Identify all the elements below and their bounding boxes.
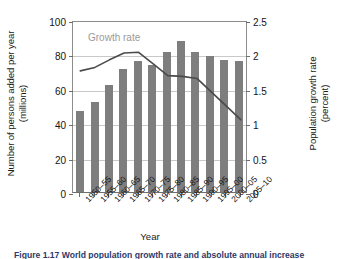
y-axis-right-tick-label: 0.5 — [253, 154, 267, 165]
y-axis-left-tick-label: 40 — [55, 120, 66, 131]
figure-caption: Figure 1.17 World population growth rate… — [14, 250, 334, 259]
x-axis-tick-label: 1985–90 — [185, 197, 192, 204]
x-axis-tick-label: 1970–75 — [142, 197, 149, 204]
x-axis-labels: 1950–551955–601960–651965–701970–751975–… — [72, 197, 247, 231]
y-axis-right-title-line2: (percent) — [319, 56, 331, 150]
x-axis-tick-label: 1955–60 — [98, 197, 105, 204]
x-axis-tick-label: 1990–95 — [200, 197, 207, 204]
plot-area: 020406080100 00.511.522.5 — [72, 21, 247, 193]
growth-rate-line — [80, 52, 240, 119]
x-axis-tick-label: 2005–10 — [244, 197, 251, 204]
y-axis-right-title: Population growth rate (percent) — [302, 8, 336, 198]
x-axis-tick-label: 1975–80 — [156, 197, 163, 204]
x-axis-tick-label: 1980–85 — [171, 197, 178, 204]
y-axis-left-tick-label: 0 — [60, 189, 66, 200]
y-axis-left-tick-label: 60 — [55, 85, 66, 96]
x-axis-tick-label: 1995–00 — [215, 197, 222, 204]
x-axis-tick-label: 2000–05 — [229, 197, 236, 204]
y-axis-right-tick-label: 1.5 — [253, 85, 267, 96]
x-axis-tick-label: 1960–65 — [112, 197, 119, 204]
y-axis-left-tick-label: 100 — [49, 17, 66, 28]
growth-rate-line-series — [73, 22, 248, 194]
y-axis-left-title-line1: Number of persons added per year — [6, 30, 18, 176]
x-axis-tick-label: 1950–55 — [83, 197, 90, 204]
y-axis-right-tick-label: 1 — [253, 120, 259, 131]
growth-rate-annotation-label: Growth rate — [88, 32, 140, 43]
y-axis-left-title: Number of persons added per year (millio… — [2, 8, 32, 198]
x-axis-tick-label: 1965–70 — [127, 197, 134, 204]
y-axis-left-title-line2: (millions) — [17, 30, 29, 176]
y-axis-left-tick-label: 20 — [55, 154, 66, 165]
y-axis-right-title-line1: Population growth rate — [308, 56, 320, 150]
y-axis-right-tick-label: 2.5 — [253, 17, 267, 28]
y-axis-left-tick-label: 80 — [55, 51, 66, 62]
figure-population-growth: Number of persons added per year (millio… — [0, 0, 344, 259]
y-axis-right-tick-label: 2 — [253, 51, 259, 62]
x-axis-title: Year — [0, 231, 300, 242]
